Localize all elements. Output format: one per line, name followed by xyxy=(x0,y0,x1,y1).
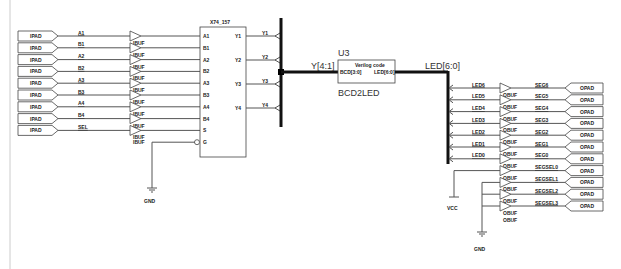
decoder-type-label: BCD2LED xyxy=(338,88,380,98)
opad-label: OPAD xyxy=(580,132,594,138)
mux-output-net-label: Y2 xyxy=(262,54,268,60)
input-net-label: A3 xyxy=(78,77,85,83)
ipad-label: IPAD xyxy=(30,92,42,98)
decoder-title: Verilog code xyxy=(355,62,385,68)
input-net-label: A1 xyxy=(78,30,85,36)
led-bus-label: LED[6:0] xyxy=(425,61,460,71)
seg-net-label: SEG5 xyxy=(535,93,549,99)
mux-pin-b1: B1 xyxy=(203,45,210,51)
input-net-label: B4 xyxy=(78,112,85,118)
y-bus[interactable]: Y[4:1] xyxy=(278,18,338,127)
opad-label: OPAD xyxy=(580,156,594,162)
mux-pin-b3: B3 xyxy=(203,92,210,98)
ipad-label: IPAD xyxy=(30,45,42,51)
led-net-label: LED1 xyxy=(472,141,485,147)
mux-output-net-label: Y4 xyxy=(262,102,268,108)
opad-label: OPAD xyxy=(580,179,594,185)
mux-pin-y4: Y4 xyxy=(235,105,241,111)
opad-label: OPAD xyxy=(580,120,594,126)
mux-pin-y1: Y1 xyxy=(235,33,241,39)
led-net-label: LED4 xyxy=(472,105,485,111)
opad-label: OPAD xyxy=(580,203,594,209)
gnd-label-left: GND xyxy=(144,198,156,204)
ipad-label: IPAD xyxy=(30,68,42,74)
mux-pin-y2: Y2 xyxy=(235,57,241,63)
bus-tap-icon xyxy=(275,105,280,111)
vcc-wire[interactable] xyxy=(454,171,500,197)
mux-output-net-label: Y3 xyxy=(262,78,268,84)
gnd-label-right: GND xyxy=(474,246,486,252)
ipad-label: IPAD xyxy=(30,33,42,39)
led-net-label: LED6 xyxy=(472,82,485,88)
ibuf-label: IBUF xyxy=(133,139,145,145)
bus-tap-icon xyxy=(275,57,280,63)
led-net-label: LED2 xyxy=(472,129,485,135)
mux-pin-a3: A3 xyxy=(203,80,210,86)
input-net-label: B3 xyxy=(78,89,85,95)
mux-pin-a4: A4 xyxy=(203,104,210,110)
opad-label: OPAD xyxy=(580,97,594,103)
opad-label: OPAD xyxy=(580,191,594,197)
led-net-label: LED3 xyxy=(472,117,485,123)
input-net-label: B1 xyxy=(78,41,85,47)
ipad-label: IPAD xyxy=(30,116,42,122)
input-pad-sel[interactable]: IPADSELIBUF xyxy=(18,124,200,141)
seg-net-label: SEGSEL2 xyxy=(535,188,558,194)
seg-net-label: SEG6 xyxy=(535,82,549,88)
input-net-label: SEL xyxy=(78,124,88,130)
input-net-label: A4 xyxy=(78,100,85,106)
input-net-label: B2 xyxy=(78,65,85,71)
input-net-label: A2 xyxy=(78,53,85,59)
mux-pin-b4: B4 xyxy=(203,116,210,122)
ipad-label: IPAD xyxy=(30,127,42,133)
mux-pin-a1: A1 xyxy=(203,33,210,39)
mux-pin-b2: B2 xyxy=(203,68,210,74)
seg-net-label: SEG2 xyxy=(535,129,549,135)
g-to-gnd-wire[interactable] xyxy=(152,142,195,188)
opad-label: OPAD xyxy=(580,109,594,115)
seg-net-label: SEG1 xyxy=(535,141,549,147)
g-inverter-bubble-icon xyxy=(195,140,200,145)
decoder-in-pin: BCD[3:0] xyxy=(340,69,362,75)
ipad-label: IPAD xyxy=(30,104,42,110)
led-net-label: LED0 xyxy=(472,152,485,158)
decoder-instance-label: U3 xyxy=(338,48,350,58)
y-bus-label: Y[4:1] xyxy=(311,61,335,71)
output-pad-group: LED6OBUFSEG6OPADLED5OBUFSEG5OPADLED4OBUF… xyxy=(449,82,603,217)
bus-tap-icon xyxy=(275,81,280,87)
mux-output-net-label: Y1 xyxy=(262,30,268,36)
obuf-label: OBUF xyxy=(503,210,517,216)
led-net-label: LED5 xyxy=(472,93,485,99)
opad-label: OPAD xyxy=(580,144,594,150)
seg-net-label: SEGSEL3 xyxy=(535,200,558,206)
input-pad-group: IPADA1IBUFIPADB1IBUFIPADA2IBUFIPADB2IBUF… xyxy=(18,30,200,146)
seg-net-label: SEGSEL1 xyxy=(535,176,558,182)
ipad-label: IPAD xyxy=(30,80,42,86)
mux-pin-y3: Y3 xyxy=(235,81,241,87)
seg-net-label: SEG0 xyxy=(535,152,549,158)
bcd2led-decoder[interactable]: U3Verilog codeBCD[3:0]LED[6:0]BCD2LED xyxy=(338,48,395,98)
seg-net-label: SEG4 xyxy=(535,105,549,111)
mux-pin-g: G xyxy=(203,139,207,145)
obuf-label: OBUF xyxy=(503,217,517,223)
mux-pin-a2: A2 xyxy=(203,57,210,63)
opad-label: OPAD xyxy=(580,85,594,91)
mux-74-157[interactable]: X74_157A1B1A2B2A3B3A4B4SGY1Y1Y2Y2Y3Y3Y4Y… xyxy=(195,19,281,157)
mux-name-label: X74_157 xyxy=(210,19,230,25)
opad-label: OPAD xyxy=(580,168,594,174)
bus-tap-icon xyxy=(275,33,280,39)
vcc-label: VCC xyxy=(447,205,458,211)
seg-net-label: SEGSEL0 xyxy=(535,164,558,170)
ipad-label: IPAD xyxy=(30,57,42,63)
decoder-out-pin: LED[6:0] xyxy=(374,69,395,75)
seg-net-label: SEG3 xyxy=(535,117,549,123)
schematic-canvas: IPADA1IBUFIPADB1IBUFIPADA2IBUFIPADB2IBUF… xyxy=(0,0,621,269)
